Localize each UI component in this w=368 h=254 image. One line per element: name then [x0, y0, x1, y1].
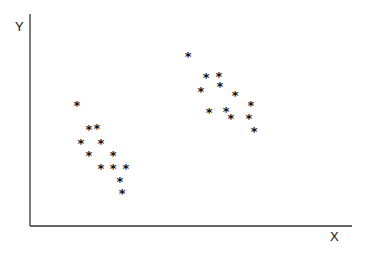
star-marker-icon: *	[185, 49, 192, 64]
star-marker-icon: *	[77, 136, 84, 151]
star-marker-icon: *	[232, 88, 239, 103]
star-marker-icon: *	[206, 105, 213, 120]
star-marker-icon: *	[198, 84, 205, 99]
star-marker-icon: *	[123, 161, 130, 176]
star-marker-icon: *	[217, 79, 224, 94]
data-points: ************************	[74, 49, 258, 201]
star-marker-icon: *	[97, 161, 104, 176]
x-axis-label: X	[330, 229, 339, 244]
star-marker-icon: *	[228, 111, 235, 126]
star-marker-icon: *	[86, 148, 93, 163]
y-axis-label: Y	[15, 19, 24, 34]
star-marker-icon: *	[203, 70, 210, 85]
star-marker-icon: *	[97, 136, 104, 151]
star-marker-icon: *	[86, 122, 93, 137]
star-marker-icon: *	[119, 186, 126, 201]
star-marker-icon: *	[74, 98, 81, 113]
star-marker-icon: *	[94, 121, 101, 136]
scatter-chart: Y X ************************	[0, 0, 368, 254]
star-marker-icon: *	[251, 124, 258, 139]
